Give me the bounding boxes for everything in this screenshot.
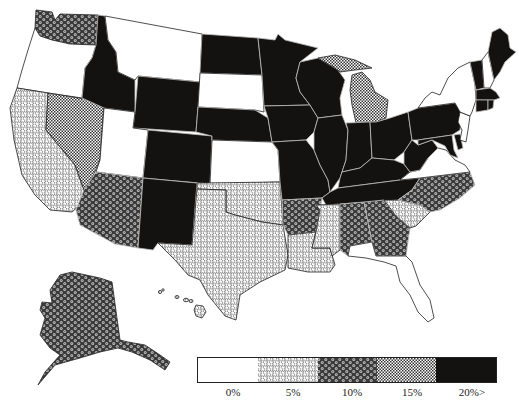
state-KS [210, 140, 280, 184]
legend-swatch-20 [436, 358, 496, 382]
legend-bar [197, 357, 497, 383]
legend-labels: 0% 5% 10% 15% 20%> [197, 386, 497, 402]
state-RI [488, 100, 494, 110]
legend-swatch-15 [377, 358, 436, 382]
state-MT [105, 16, 202, 82]
legend-swatch-0 [198, 358, 258, 382]
state-MA [476, 88, 500, 100]
legend-label-0: 0% [226, 386, 241, 398]
state-MI [350, 72, 388, 123]
state-ND [200, 34, 262, 75]
legend-swatch-10 [318, 358, 377, 382]
legend-swatch-5 [258, 358, 318, 382]
legend-label-5: 5% [286, 386, 301, 398]
state-IA [264, 105, 318, 142]
state-SD [198, 73, 264, 112]
state-AR [282, 198, 322, 235]
state-HI [158, 289, 206, 318]
state-WY [133, 76, 200, 132]
state-NM [138, 178, 197, 250]
state-AK [38, 272, 170, 385]
legend-label-15: 15% [402, 386, 422, 398]
state-ME [488, 28, 516, 80]
legend-label-20: 20%> [459, 386, 485, 398]
us-choropleth-map [0, 0, 519, 407]
state-CT [476, 100, 488, 112]
state-PA [408, 103, 462, 140]
legend-label-10: 10% [342, 386, 362, 398]
state-CO [143, 130, 212, 184]
